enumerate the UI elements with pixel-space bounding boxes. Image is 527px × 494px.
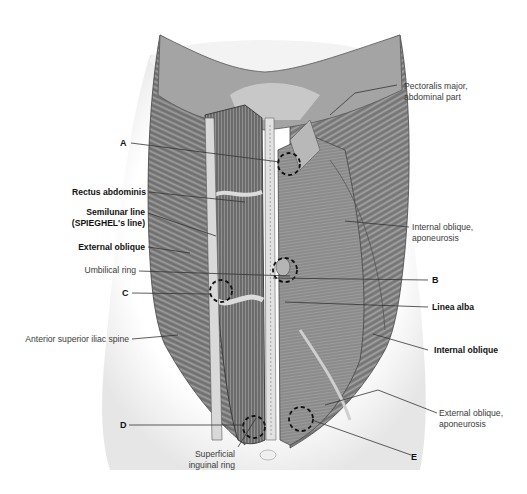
label-b: B bbox=[432, 275, 439, 286]
label-d: D bbox=[120, 420, 127, 431]
label-anterior-superior-iliac-spine: Anterior superior iliac spine bbox=[10, 334, 129, 345]
label-external-oblique: External oblique bbox=[40, 242, 145, 253]
label-pectoralis-major: Pectoralis major, abdominal part bbox=[404, 81, 468, 102]
label-e: E bbox=[411, 452, 417, 463]
linea-alba bbox=[265, 118, 276, 440]
label-semilunar-line: Semilunar line (SPIEGHEL's line) bbox=[40, 207, 145, 228]
label-internal-oblique-aponeurosis: Internal oblique, aponeurosis bbox=[412, 222, 473, 243]
label-external-oblique-aponeurosis: External oblique, aponeurosis bbox=[439, 408, 503, 429]
label-superficial-inguinal-ring: Superficial inguinal ring bbox=[180, 449, 235, 470]
label-umbilical-ring: Umbilical ring bbox=[40, 265, 136, 276]
label-internal-oblique: Internal oblique bbox=[434, 345, 498, 356]
label-c: C bbox=[122, 288, 129, 299]
label-a: A bbox=[120, 138, 127, 149]
label-rectus-abdominis: Rectus abdominis bbox=[40, 187, 146, 198]
label-linea-alba: Linea alba bbox=[432, 302, 474, 313]
umbilicus bbox=[276, 258, 290, 276]
